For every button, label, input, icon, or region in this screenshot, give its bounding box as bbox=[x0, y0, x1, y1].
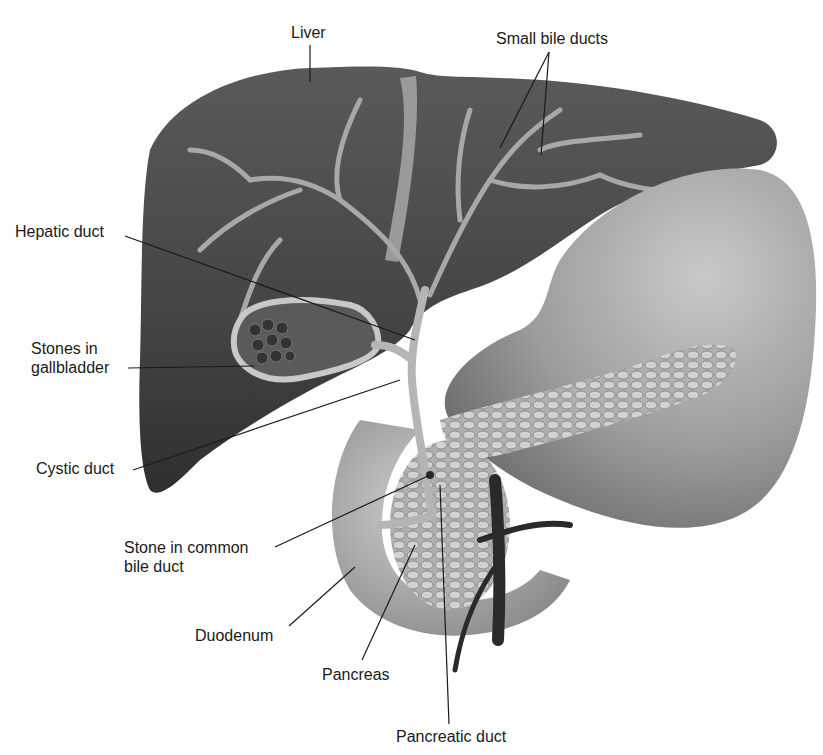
label-hepatic-duct: Hepatic duct bbox=[15, 222, 104, 241]
label-stone-in-common-bile-duct: Stone in common bile duct bbox=[124, 538, 249, 576]
label-duodenum: Duodenum bbox=[195, 626, 273, 645]
anatomy-illustration bbox=[0, 0, 823, 755]
label-liver: Liver bbox=[291, 23, 326, 42]
label-stones-in-gallbladder: Stones in gallbladder bbox=[31, 339, 109, 377]
label-pancreas: Pancreas bbox=[322, 665, 390, 684]
label-small-bile-ducts: Small bile ducts bbox=[496, 29, 608, 48]
label-cystic-duct: Cystic duct bbox=[36, 459, 114, 478]
label-pancreatic-duct: Pancreatic duct bbox=[396, 727, 506, 746]
